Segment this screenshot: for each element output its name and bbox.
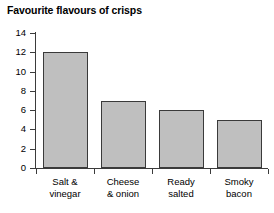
x-axis-tick [268,169,269,174]
y-axis-tick-label: 10 [15,67,26,77]
x-axis-category-label-line: Salt & [36,176,94,188]
y-axis-tick-label: 6 [21,105,26,115]
x-axis-category-label: Smokybacon [210,176,268,199]
bar [43,52,88,168]
y-axis-tick [30,33,35,34]
y-axis-tick-label: 0 [21,163,26,173]
y-axis-tick-label: 8 [21,86,26,96]
y-axis-tick-label: 4 [21,124,26,134]
x-axis-tick [210,169,211,174]
y-axis-tick [30,110,35,111]
x-axis-category-label-line: Ready [152,176,210,188]
y-axis-tick [30,91,35,92]
x-axis-tick [152,169,153,174]
x-axis-tick [36,169,37,174]
plot-area [36,33,268,168]
x-axis-tick [94,169,95,174]
y-axis-tick [30,52,35,53]
y-axis-tick [30,168,35,169]
x-axis-category-label: Readysalted [152,176,210,199]
x-axis-category-label-line: vinegar [36,188,94,200]
y-axis-tick [30,72,35,73]
x-axis-category-label: Cheese& onion [94,176,152,199]
x-axis-category-label-line: bacon [210,188,268,200]
x-axis-category-label: Salt &vinegar [36,176,94,199]
bar [159,110,204,168]
y-axis-tick-label: 12 [15,47,26,57]
y-axis-tick-label: 2 [21,144,26,154]
y-axis-tick-label: 14 [15,28,26,38]
x-axis-category-label-line: Cheese [94,176,152,188]
y-axis-tick [30,129,35,130]
x-axis-category-label-line: & onion [94,188,152,200]
y-axis-tick [30,149,35,150]
bar [217,120,262,168]
x-axis-category-label-line: Smoky [210,176,268,188]
bar [101,101,146,169]
bar-chart: Favourite flavours of crisps 02468101214… [0,0,274,213]
chart-title: Favourite flavours of crisps [7,4,142,16]
x-axis-category-label-line: salted [152,188,210,200]
